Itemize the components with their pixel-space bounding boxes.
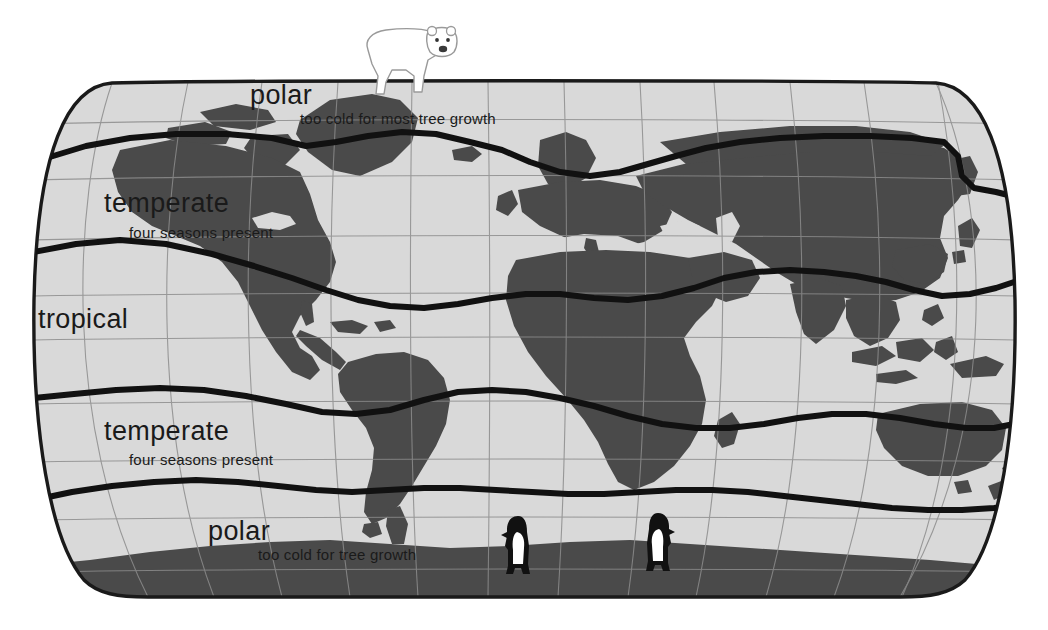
zone-label-temperate-north-title: temperate: [104, 188, 229, 218]
zone-label-polar-north-subtitle: too cold for most tree growth: [300, 110, 496, 127]
zone-label-polar-south-title: polar: [208, 516, 270, 546]
zone-label-temperate-south-subtitle: four seasons present: [129, 451, 274, 468]
land-japan-2: [952, 250, 966, 264]
zone-label-tropical-title: tropical: [38, 304, 128, 334]
zone-label-temperate-north-subtitle: four seasons present: [129, 224, 274, 241]
zone-label-temperate-south-title: temperate: [104, 416, 229, 446]
zone-label-polar-north-title: polar: [250, 80, 312, 110]
climate-zone-map-figure: polar too cold for most tree growth temp…: [0, 0, 1048, 630]
zone-label-polar-south-subtitle: too cold for tree growth: [258, 546, 416, 563]
world-map-svg: polar too cold for most tree growth temp…: [0, 0, 1048, 630]
